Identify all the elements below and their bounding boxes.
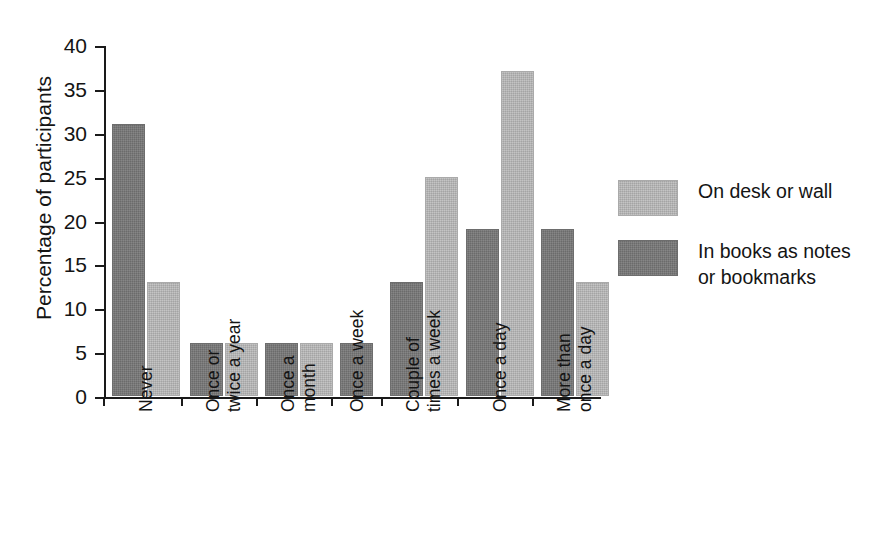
chart-legend: On desk or wallIn books as notesor bookm… (618, 178, 868, 312)
x-tick (103, 397, 105, 406)
legend-item: In books as notesor bookmarks (618, 238, 868, 290)
y-tick-label: 15 (64, 253, 87, 277)
x-tick (381, 397, 383, 406)
y-tick: 30 (95, 134, 104, 136)
legend-swatch (618, 240, 678, 276)
x-category-label-line: Once or (203, 350, 224, 412)
x-category-label-line: Once a (278, 356, 299, 412)
legend-label-line: On desk or wall (698, 178, 832, 204)
legend-label-line: or bookmarks (698, 264, 851, 290)
x-category-label-line: Once a week (346, 310, 367, 412)
y-tick: 35 (95, 90, 104, 92)
y-tick-label: 5 (75, 341, 87, 365)
x-category-label-line: Couple of (403, 337, 424, 412)
y-tick-label: 35 (64, 78, 87, 102)
y-tick-label: 30 (64, 122, 87, 146)
y-axis-title: Percentage of participants (24, 0, 64, 398)
x-category-label-line: twice a year (224, 319, 245, 412)
legend-label: On desk or wall (698, 178, 832, 204)
x-category-label-line: Never (136, 365, 157, 412)
legend-item: On desk or wall (618, 178, 868, 216)
y-axis-line (104, 46, 106, 399)
x-tick (331, 397, 333, 406)
y-tick: 40 (95, 46, 104, 48)
bar (112, 124, 145, 396)
x-category-label-line: times a week (424, 310, 445, 412)
bar-chart-figure: Percentage of participants 0510152025303… (0, 0, 874, 558)
y-tick: 5 (95, 353, 104, 355)
y-tick: 10 (95, 309, 104, 311)
y-tick-label: 40 (64, 34, 87, 58)
legend-swatch (618, 180, 678, 216)
y-tick-label: 10 (64, 297, 87, 321)
x-tick (256, 397, 258, 406)
legend-label-line: In books as notes (698, 238, 851, 264)
x-tick (181, 397, 183, 406)
legend-label: In books as notesor bookmarks (698, 238, 851, 290)
x-category-label-line: month (299, 363, 320, 412)
y-tick: 20 (95, 222, 104, 224)
x-tick (532, 397, 534, 406)
y-tick: 25 (95, 178, 104, 180)
y-tick-label: 25 (64, 166, 87, 190)
x-category-label-line: once a day (575, 326, 596, 412)
x-tick (457, 397, 459, 406)
y-tick-label: 20 (64, 210, 87, 234)
x-category-label-line: More than (554, 333, 575, 412)
x-category-label-line: Once a day (490, 323, 511, 413)
y-tick: 15 (95, 265, 104, 267)
y-tick-label: 0 (75, 385, 87, 409)
